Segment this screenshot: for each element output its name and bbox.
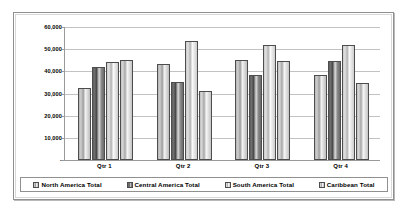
legend-item-label: North America Total	[41, 181, 101, 188]
bar[interactable]	[235, 60, 248, 160]
y-axis-tick-label: 20,000	[20, 113, 62, 119]
legend-item[interactable]: Caribbean Total	[319, 181, 375, 188]
bar[interactable]	[199, 91, 212, 160]
y-axis-tick-label: 50,000	[20, 46, 62, 52]
chart-plot-wrapper: 60,00050,00040,00030,00020,00010,000- Qt…	[14, 13, 395, 201]
bar[interactable]	[92, 67, 105, 160]
y-axis-tick-label: -	[20, 157, 62, 163]
y-axis-tick-mark	[62, 94, 65, 95]
y-axis-tick-label: 40,000	[20, 68, 62, 74]
x-axis-tick-label: Qtr 1	[65, 163, 144, 169]
legend-item-label: Caribbean Total	[327, 181, 375, 188]
legend-item-label: South America Total	[233, 181, 294, 188]
legend-item[interactable]: South America Total	[225, 181, 294, 188]
x-axis-tick-label: Qtr 4	[301, 163, 380, 169]
bar[interactable]	[314, 75, 327, 160]
chart-frame: 60,00050,00040,00030,00020,00010,000- Qt…	[13, 12, 394, 200]
legend-swatch-icon	[33, 182, 39, 188]
bar-cluster	[145, 27, 224, 160]
y-axis-tick-mark	[62, 138, 65, 139]
bar-cluster	[302, 27, 381, 160]
bar[interactable]	[120, 60, 133, 160]
plot-area	[64, 27, 380, 161]
bar[interactable]	[356, 83, 369, 160]
bar[interactable]	[328, 61, 341, 160]
x-axis-tick-label: Qtr 2	[144, 163, 223, 169]
bar[interactable]	[249, 75, 262, 160]
y-axis-tick-mark	[62, 71, 65, 72]
legend-item[interactable]: North America Total	[33, 181, 101, 188]
bar[interactable]	[157, 64, 170, 160]
bar-cluster	[66, 27, 145, 160]
y-axis-tick-label: 10,000	[20, 135, 62, 141]
legend-swatch-icon	[319, 182, 325, 188]
bar-cluster	[224, 27, 303, 160]
bar[interactable]	[171, 82, 184, 160]
legend-swatch-icon	[225, 182, 231, 188]
bar-clusters	[66, 27, 381, 160]
legend-item-label: Central America Total	[135, 181, 200, 188]
legend-swatch-icon	[127, 182, 133, 188]
y-axis-tick-labels: 60,00050,00040,00030,00020,00010,000-	[20, 24, 62, 160]
bar[interactable]	[78, 88, 91, 160]
y-axis-tick-mark	[62, 160, 65, 161]
y-axis-tick-label: 30,000	[20, 91, 62, 97]
bar[interactable]	[106, 62, 119, 160]
y-axis-tick-mark	[62, 49, 65, 50]
y-axis-tick-label: 60,000	[20, 24, 62, 30]
y-axis-tick-mark	[62, 27, 65, 28]
bar[interactable]	[185, 41, 198, 160]
bar[interactable]	[342, 45, 355, 160]
legend-item[interactable]: Central America Total	[127, 181, 200, 188]
x-axis-tick-labels: Qtr 1Qtr 2Qtr 3Qtr 4	[65, 163, 380, 169]
x-axis-tick-label: Qtr 3	[223, 163, 302, 169]
bar[interactable]	[277, 61, 290, 160]
y-axis-tick-mark	[62, 116, 65, 117]
chart-legend: North America TotalCentral America Total…	[20, 177, 388, 192]
bar[interactable]	[263, 45, 276, 160]
